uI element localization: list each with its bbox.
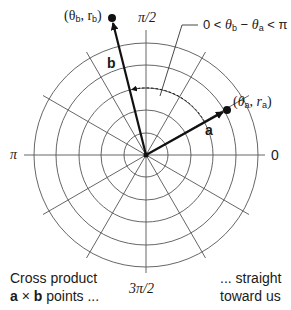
- axis-label-pi-over-2: π/2: [138, 10, 156, 25]
- bold-a: a: [10, 288, 18, 304]
- axis-label-3pi-over-2: 3π/2: [129, 281, 154, 296]
- caption-right: ... straight toward us: [220, 269, 281, 305]
- vector-a-label: a: [205, 123, 213, 138]
- condition-leader-line: [160, 25, 198, 96]
- theta-b-symbol: θ: [225, 17, 232, 32]
- condition-prefix: 0 <: [203, 17, 225, 32]
- points-text: points ...: [42, 288, 99, 304]
- theta-a-symbol: θ: [252, 17, 259, 32]
- caption-right-line1: ... straight: [220, 269, 281, 287]
- axis-label-pi: π: [10, 147, 17, 162]
- theta-symbol: θ: [238, 94, 245, 109]
- caption-right-line2: toward us: [220, 287, 281, 305]
- origin-dot: [144, 153, 149, 158]
- point-a-dot: [223, 106, 231, 114]
- times-sign: ×: [18, 288, 34, 304]
- point-b-label: (θb, rb): [64, 8, 102, 27]
- caption-left: Cross product a × b points ...: [10, 269, 99, 305]
- vector-b-label: b: [107, 56, 116, 71]
- polar-diagram: [0, 0, 291, 310]
- condition-suffix: < π: [264, 17, 288, 32]
- caption-left-line1: Cross product: [10, 269, 99, 287]
- axis-label-zero: 0: [271, 148, 279, 163]
- minus-sign: −: [237, 17, 252, 32]
- point-b-dot: [108, 14, 116, 22]
- caption-left-line2: a × b points ...: [10, 287, 99, 305]
- point-a-label: (θa, ra): [233, 94, 272, 113]
- angle-condition-label: 0 < θb − θa < π: [203, 17, 287, 36]
